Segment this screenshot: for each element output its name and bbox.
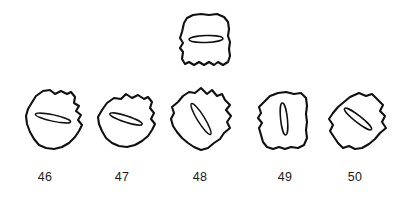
figure-label-49: 49 <box>265 170 305 184</box>
specimen-figure-top <box>171 7 241 77</box>
figure-label-48: 48 <box>180 170 220 184</box>
specimen-figure-47 <box>90 86 164 156</box>
specimen-figure-49 <box>251 85 319 157</box>
specimen-figure-50 <box>321 85 395 157</box>
figure-label-46: 46 <box>25 170 65 184</box>
specimen-figure-48 <box>163 81 239 157</box>
specimen-aperture-top <box>189 35 223 43</box>
illustration-plate: 46 47 48 49 50 <box>0 0 406 202</box>
figure-label-47: 47 <box>102 170 142 184</box>
figure-label-50: 50 <box>335 170 375 184</box>
specimen-figure-46 <box>17 82 91 156</box>
